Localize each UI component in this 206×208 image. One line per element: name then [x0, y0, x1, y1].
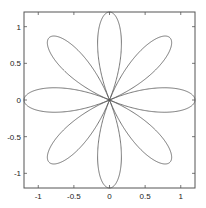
y-tick-label: 0.5: [10, 59, 22, 68]
y-tick-labels: -1-0.500.51: [7, 23, 21, 179]
x-tick-labels: -1-0.500.51: [35, 192, 184, 201]
x-tick-label: 0: [107, 192, 112, 201]
rose-curve: [24, 12, 195, 188]
x-tick-label: 0.5: [140, 192, 152, 201]
y-tick-label: 0: [17, 96, 22, 105]
y-tick-label: 1: [17, 23, 22, 32]
chart: -1-0.500.51 -1-0.500.51: [0, 0, 206, 208]
x-tick-label: -0.5: [67, 192, 81, 201]
rose-curve-path: [24, 12, 195, 188]
y-tick-label: -1: [14, 169, 22, 178]
x-tick-label: 1: [179, 192, 184, 201]
y-tick-label: -0.5: [7, 133, 21, 142]
x-tick-label: -1: [35, 192, 43, 201]
